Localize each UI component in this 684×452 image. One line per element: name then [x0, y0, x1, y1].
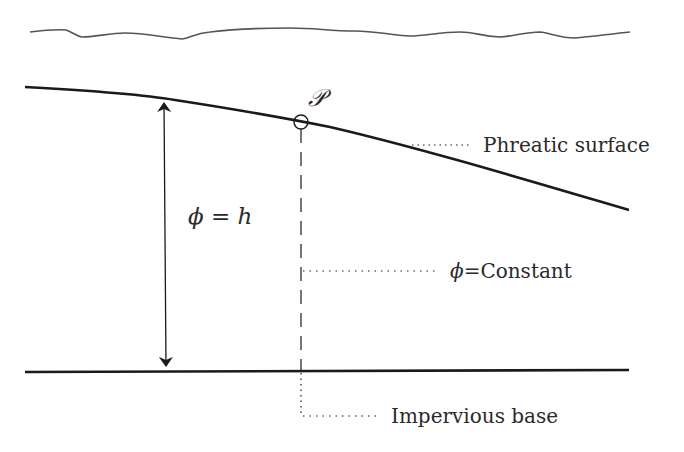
impervious-base-line — [25, 370, 629, 372]
impervious-base-label: Impervious base — [391, 404, 558, 428]
phi-symbol: ϕ — [450, 259, 464, 283]
phi-equals-h-label: ϕ = h — [188, 203, 252, 229]
ground-surface-wavy-line — [30, 28, 630, 39]
point-p-label: 𝒫 — [308, 84, 332, 112]
diagram-canvas: 𝒫 Phreatic surface ϕ = h ϕ=Constant Impe… — [0, 0, 684, 452]
constant-text: =Constant — [464, 259, 572, 283]
head-double-arrow — [164, 103, 166, 366]
phi-symbol: ϕ — [188, 203, 204, 229]
phreatic-surface-label: Phreatic surface — [483, 133, 650, 157]
phi-constant-label: ϕ=Constant — [450, 259, 572, 283]
equals-sign: = — [204, 203, 238, 229]
h-symbol: h — [238, 203, 253, 229]
